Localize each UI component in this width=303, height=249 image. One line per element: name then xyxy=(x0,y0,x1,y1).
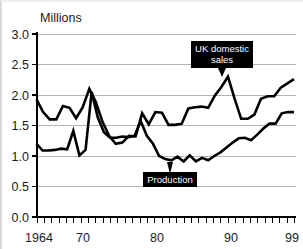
annotation-label-uk-domestic-line1: UK domestic xyxy=(195,43,249,54)
y-axis-title: Millions xyxy=(40,11,82,25)
y-tick-label-2.0: 2.0 xyxy=(12,89,29,103)
annotation-production: Production xyxy=(143,162,197,187)
x-tick-label-90: 90 xyxy=(224,231,238,245)
chart-figure: 3.0 2.5 2.0 1.5 1.0 0.5 0.0 Millions 196… xyxy=(0,0,303,249)
y-tick-marks xyxy=(32,34,36,217)
y-tick-label-2.5: 2.5 xyxy=(12,58,29,72)
axes xyxy=(36,32,296,217)
y-tick-labels: 3.0 2.5 2.0 1.5 1.0 0.5 0.0 xyxy=(12,28,29,225)
y-tick-label-0.5: 0.5 xyxy=(12,180,29,194)
x-tick-label-80: 80 xyxy=(150,231,164,245)
line-chart: 3.0 2.5 2.0 1.5 1.0 0.5 0.0 Millions 196… xyxy=(2,2,303,249)
annotation-label-production: Production xyxy=(147,174,192,185)
y-tick-label-0.0: 0.0 xyxy=(12,211,29,225)
x-tick-label-70: 70 xyxy=(76,231,90,245)
x-tick-label-1964: 1964 xyxy=(25,231,53,245)
y-tick-label-3.0: 3.0 xyxy=(12,28,29,42)
y-tick-label-1.5: 1.5 xyxy=(12,119,29,133)
annotation-pointer-uk-domestic-sales xyxy=(218,68,226,77)
series-group xyxy=(37,77,295,162)
x-tick-label-99: 99 xyxy=(285,231,299,245)
x-tick-labels: 1964 70 80 90 99 xyxy=(25,231,299,245)
y-tick-label-1.0: 1.0 xyxy=(12,150,29,164)
annotation-label-uk-domestic-line2: sales xyxy=(211,54,233,65)
series-line-production xyxy=(37,92,295,162)
annotation-uk-domestic-sales: UK domestic sales xyxy=(191,41,253,77)
